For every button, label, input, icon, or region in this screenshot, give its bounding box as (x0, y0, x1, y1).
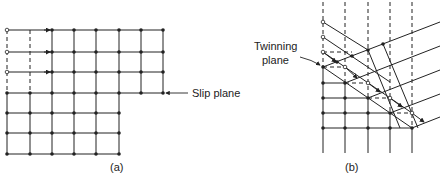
panel-b-lattice (323, 2, 440, 153)
twinning-plane-pointer (300, 57, 320, 65)
slip-plane-label: Slip plane (192, 87, 240, 99)
twinning-plane-label-line2: plane (262, 54, 289, 66)
twinning-plane-label-line1: Twinning (254, 40, 297, 52)
panel-b-caption: (b) (345, 161, 358, 173)
panel-a-caption: (a) (110, 161, 123, 173)
diagram: Slip plane (a) (0, 0, 445, 182)
